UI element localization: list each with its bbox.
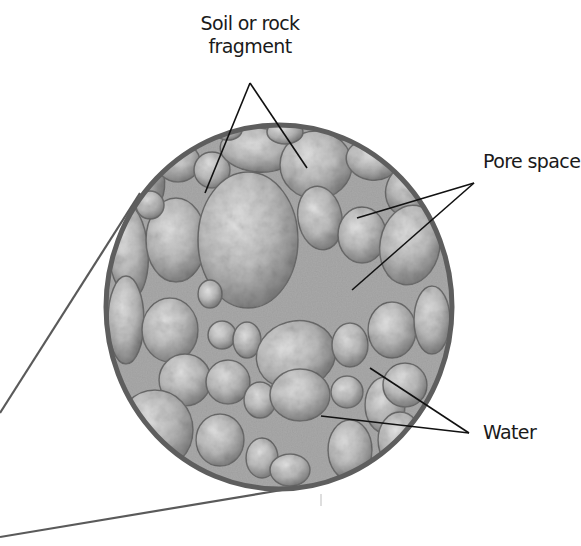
soil-grain bbox=[414, 286, 450, 354]
pore-space-diagram: Soil or rock fragment Pore space Water bbox=[0, 0, 581, 546]
soil-grain bbox=[270, 369, 330, 421]
soil-grain bbox=[332, 323, 368, 367]
soil-grain bbox=[331, 376, 363, 408]
soil-grain bbox=[196, 414, 244, 466]
soil-grain bbox=[208, 321, 236, 349]
soil-grain bbox=[368, 302, 416, 358]
soil-grain bbox=[142, 298, 198, 362]
projection-line-2 bbox=[0, 490, 282, 537]
soil-grain bbox=[198, 280, 222, 308]
label-soil-or-rock-fragment: Soil or rock fragment bbox=[193, 12, 307, 58]
soil-grain bbox=[270, 454, 310, 486]
label-soil-line1: Soil or rock bbox=[193, 12, 307, 35]
magnified-soil-sample bbox=[95, 120, 460, 500]
label-water: Water bbox=[483, 421, 536, 444]
label-soil-line2: fragment bbox=[193, 35, 307, 58]
soil-grain bbox=[338, 207, 386, 263]
diagram-artwork bbox=[0, 0, 581, 546]
label-pore-space: Pore space bbox=[483, 150, 580, 173]
